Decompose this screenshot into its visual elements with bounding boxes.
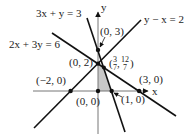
label-point-1-0: (1, 0)	[121, 93, 145, 106]
svg-text:7: 7	[123, 63, 127, 72]
point-intersection	[102, 66, 106, 70]
svg-text:,: ,	[117, 57, 120, 69]
point-0-2	[96, 61, 100, 65]
point-0-3	[96, 48, 100, 52]
graph: y x 3x + y = 3 2x + 3y = 6 y − x = 2 (0,…	[0, 0, 194, 134]
label-line3: y − x = 2	[144, 13, 184, 25]
label-point-0-3: (0, 3)	[100, 25, 124, 38]
point-0-0	[96, 89, 100, 93]
label-point-0-2: (0, 2)	[69, 56, 93, 69]
svg-text:): )	[130, 57, 134, 70]
label-line2: 2x + 3y = 6	[9, 38, 60, 50]
point-1-0	[110, 89, 114, 93]
x-axis-label: x	[152, 85, 158, 97]
label-point-0-0: (0, 0)	[76, 95, 100, 108]
label-point-intersection: ( 3 7 , 12 7 )	[109, 55, 134, 72]
point-neg2-0	[68, 89, 72, 93]
label-point-neg2-0: (−2, 0)	[36, 74, 66, 87]
leader-0-3	[100, 37, 105, 47]
label-point-3-0: (3, 0)	[139, 73, 163, 86]
label-line1: 3x + y = 3	[36, 7, 82, 19]
y-axis-label: y	[101, 1, 107, 13]
